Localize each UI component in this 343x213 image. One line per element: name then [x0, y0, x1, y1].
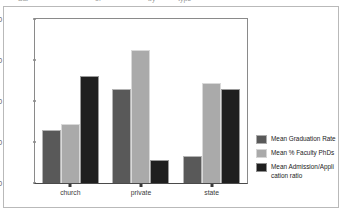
bar	[61, 124, 80, 183]
legend-swatch	[256, 135, 267, 144]
chart-frame: 5060708090 churchprivatestate Mean Gradu…	[3, 6, 339, 208]
legend-label: Mean % Faculty PhDs	[271, 149, 334, 158]
y-axis-tick-label: 90	[0, 16, 2, 23]
bar	[131, 50, 150, 183]
x-axis-tick-mark	[210, 184, 213, 187]
clipped-text-fragment-2: of	[95, 0, 101, 2]
clipped-text-fragment-1: Bar	[18, 0, 29, 2]
chart-legend: Mean Graduation RateMean % Faculty PhDsM…	[256, 135, 338, 185]
x-axis-category-label: private	[131, 189, 151, 196]
bar-group	[106, 19, 177, 183]
y-axis: 5060708090	[4, 7, 34, 174]
bar	[221, 89, 240, 183]
bar-group	[35, 19, 106, 183]
legend-item[interactable]: Mean Graduation Rate	[256, 135, 338, 144]
y-axis-tick-label: 50	[0, 180, 2, 187]
bar-group	[176, 19, 247, 183]
clipped-text-fragment-3: by	[148, 0, 155, 2]
bar	[112, 89, 131, 183]
bar	[202, 83, 221, 183]
bar	[80, 76, 99, 183]
x-axis-category-label: church	[60, 189, 80, 196]
y-axis-tick-label: 60	[0, 139, 2, 146]
bar-series-container	[35, 19, 247, 183]
bar	[150, 160, 169, 183]
y-axis-tick-label: 80	[0, 57, 2, 64]
legend-item[interactable]: Mean Admission/Appli cation ratio	[256, 163, 338, 180]
y-axis-tick-label: 70	[0, 98, 2, 105]
clipped-text-fragment-4: type	[178, 0, 191, 2]
legend-swatch	[256, 149, 267, 158]
x-axis-tick-mark	[140, 184, 143, 187]
legend-item[interactable]: Mean % Faculty PhDs	[256, 149, 338, 158]
bar	[183, 156, 202, 183]
legend-swatch	[256, 163, 267, 172]
bar	[42, 130, 61, 183]
x-axis-category-label: state	[204, 189, 219, 196]
legend-label: Mean Admission/Appli cation ratio	[271, 163, 337, 180]
legend-label: Mean Graduation Rate	[271, 135, 336, 144]
x-axis-tick-mark	[69, 184, 72, 187]
